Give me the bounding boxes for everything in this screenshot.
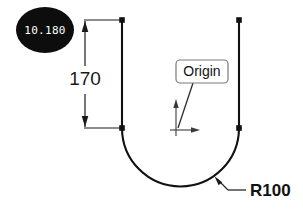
origin-axis-marker — [170, 99, 200, 136]
dimension-arrowhead-top — [82, 21, 89, 32]
profile-geometry — [122, 20, 239, 187]
dimension-arrowhead-bottom — [82, 116, 89, 127]
origin-label-text: Origin — [183, 63, 220, 79]
vertex-dot-tangent-right — [236, 125, 242, 131]
origin-callout[interactable]: Origin — [176, 60, 228, 128]
dimension-value-label: 170 — [69, 68, 101, 89]
drawing-canvas: 170 Origin R100 — [0, 0, 303, 213]
vertex-dot-top-right — [236, 17, 242, 23]
value-badge: 10.180 — [16, 7, 74, 53]
technical-drawing: 170 Origin R100 — [0, 0, 303, 213]
x-axis-arrow-head — [191, 127, 200, 132]
radius-callout: R100 — [215, 176, 291, 200]
radius-value-label: R100 — [250, 181, 291, 200]
dimension-170: 170 — [69, 20, 122, 128]
y-axis-arrow-head — [173, 99, 178, 108]
profile-bottom-arc — [122, 128, 239, 187]
origin-leader-line — [178, 83, 193, 128]
value-badge-label: 10.180 — [24, 24, 66, 37]
